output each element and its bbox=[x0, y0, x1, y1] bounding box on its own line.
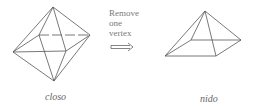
octahedron-closo bbox=[13, 7, 90, 81]
label-line-2: one bbox=[109, 18, 139, 28]
nido-caption: nido bbox=[200, 94, 218, 104]
square-pyramid-nido bbox=[165, 11, 241, 56]
label-line-1: Remove bbox=[109, 8, 139, 18]
transformation-label: Remove one vertex bbox=[109, 8, 139, 38]
label-line-3: vertex bbox=[109, 28, 139, 38]
double-arrow-right-icon bbox=[111, 43, 133, 51]
closo-caption: closo bbox=[45, 92, 66, 102]
